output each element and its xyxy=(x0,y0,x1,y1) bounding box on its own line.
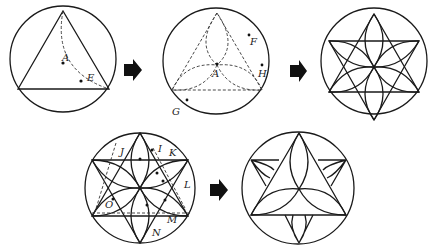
point-a xyxy=(215,62,218,65)
main-triangle xyxy=(251,133,346,215)
point-h xyxy=(261,64,264,67)
dashed-lens-left xyxy=(172,65,217,90)
label-o: O xyxy=(105,199,113,210)
label-g: G xyxy=(172,106,180,117)
outer-circle xyxy=(321,8,427,114)
label-n: N xyxy=(151,227,162,238)
inner-lenses xyxy=(251,133,346,215)
panel-step3 xyxy=(321,8,427,120)
dashed-lens-top xyxy=(206,13,228,65)
arrow-right-icon xyxy=(124,59,142,81)
outer-circle xyxy=(163,8,269,114)
panel-step4: J I K L O M N xyxy=(85,133,195,243)
arrow-right-icon xyxy=(290,60,307,82)
construction-diagram: A E A F H G xyxy=(0,0,429,251)
label-m: M xyxy=(166,214,178,225)
panel-step1: A E xyxy=(10,6,116,112)
point-e xyxy=(79,79,82,82)
label-f: F xyxy=(249,36,258,47)
label-h: H xyxy=(257,68,267,79)
triangle-down xyxy=(329,41,419,120)
arrow-right-icon xyxy=(210,179,228,201)
panel-step5 xyxy=(242,132,354,244)
label-k: K xyxy=(168,147,177,158)
label-a: A xyxy=(61,52,69,63)
dashed-lens-right xyxy=(217,65,262,90)
label-l: L xyxy=(183,179,191,190)
label-j: J xyxy=(118,146,125,157)
label-i: I xyxy=(157,143,163,154)
label-a: A xyxy=(211,68,219,79)
triangle-up xyxy=(329,14,419,92)
inscribed-triangle xyxy=(18,11,109,89)
panel-step2: A F H G xyxy=(163,8,269,117)
label-e: E xyxy=(86,72,95,83)
point-g xyxy=(186,99,189,102)
outer-petals xyxy=(251,160,346,243)
